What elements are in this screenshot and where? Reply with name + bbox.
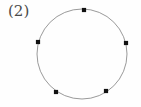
circle-point-right — [124, 41, 128, 45]
figure-canvas: (2) — [0, 0, 141, 107]
point-layer — [36, 8, 128, 94]
circle-point-bottom-right — [104, 89, 108, 93]
circle-diagram — [0, 0, 141, 107]
circle-point-top — [82, 8, 86, 12]
circle-outline — [37, 9, 127, 99]
circle-point-left — [36, 40, 40, 44]
shape-layer — [37, 9, 127, 99]
circle-point-bottom-left — [54, 90, 58, 94]
